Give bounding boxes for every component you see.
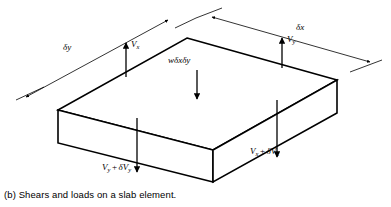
slab-diagram-svg [0, 0, 391, 207]
shear-vx-plus-dvx-second: δV [266, 146, 276, 156]
slab-element-figure: δy δx wδxδy Vx Vy Vy+δVy Vx+δVx (b) Shea… [0, 0, 391, 207]
shear-vy-plus-dvy-second-subscript: y [128, 166, 131, 173]
shear-vx-plus-dvx-second-subscript: x [276, 150, 279, 157]
shear-vx-plus-dvx-first: V [250, 146, 256, 156]
shear-vx-subscript: x [137, 43, 140, 50]
shear-vy-subscript: y [293, 38, 296, 45]
shear-label-vx: Vx [131, 40, 139, 49]
shear-vy-base: V [287, 34, 293, 44]
shear-vx-base: V [131, 39, 137, 49]
dimension-label-delta-y: δy [63, 43, 71, 52]
delta-y-extension-back [175, 18, 196, 28]
dimension-label-delta-x: δx [296, 23, 304, 32]
slab-body [58, 38, 337, 182]
delta-y-extension-left [16, 87, 44, 100]
delta-x-extension-right [350, 60, 382, 72]
shear-vx-plus-dvx-first-subscript: x [256, 150, 259, 157]
shear-label-vx-plus-dvx: Vx+δVx [250, 147, 279, 156]
shear-label-vy-plus-dvy: Vy+δVy [102, 163, 131, 172]
figure-caption: (b) Shears and loads on a slab element. [4, 189, 176, 200]
shear-vy-plus-dvy-second: δV [118, 162, 128, 172]
shear-vy-plus-dvy-first: V [102, 162, 108, 172]
delta-x-extension-back [196, 8, 222, 18]
shear-vy-plus-dvy-first-subscript: y [108, 166, 111, 173]
shear-label-vy: Vy [287, 35, 295, 44]
load-label-w: wδxδy [168, 56, 190, 65]
